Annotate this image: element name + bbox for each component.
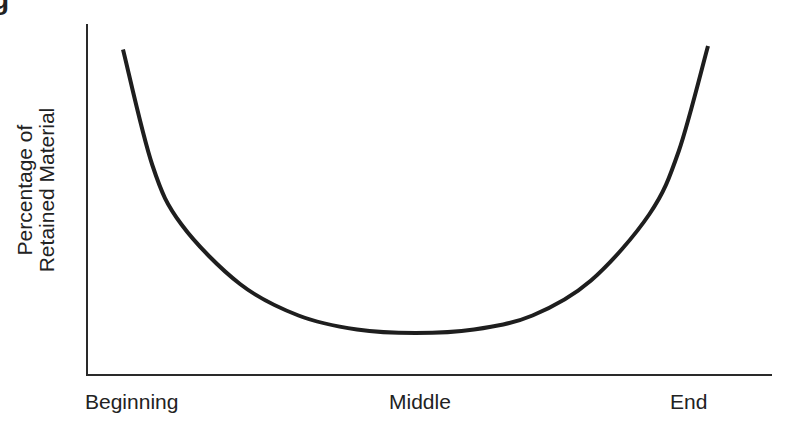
y-axis-label-line-2: Retained Material bbox=[36, 80, 58, 300]
y-axis-label-line-1: Percentage of bbox=[14, 80, 36, 300]
x-tick-middle: Middle bbox=[389, 390, 451, 414]
chart-canvas bbox=[0, 0, 788, 434]
y-axis-label: Percentage of Retained Material bbox=[14, 80, 58, 300]
x-tick-end: End bbox=[670, 390, 707, 414]
x-tick-beginning: Beginning bbox=[85, 390, 178, 414]
retention-curve bbox=[123, 46, 708, 333]
